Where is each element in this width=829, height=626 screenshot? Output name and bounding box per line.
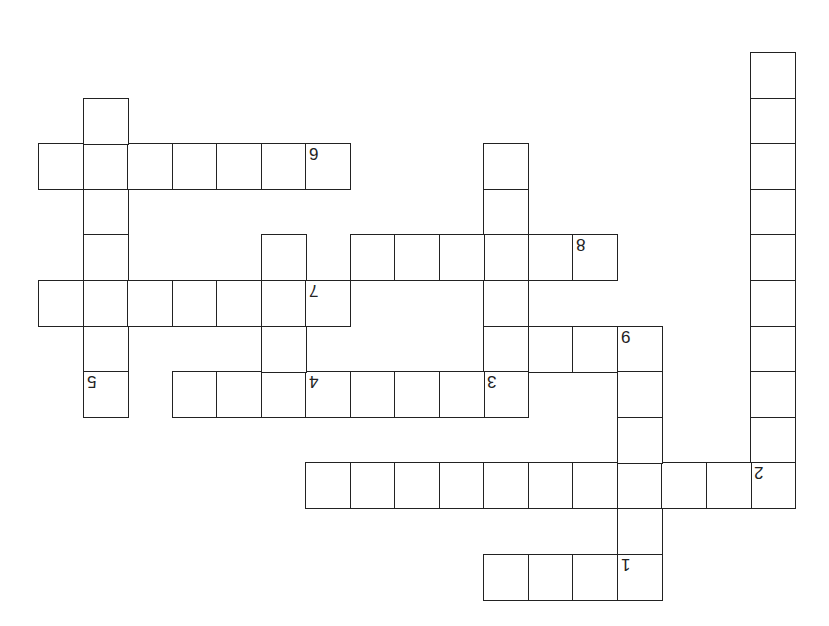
crossword-cell[interactable] bbox=[750, 371, 796, 418]
crossword-cell[interactable] bbox=[394, 234, 440, 281]
crossword-cell[interactable] bbox=[528, 326, 574, 373]
crossword-cell[interactable] bbox=[261, 234, 307, 281]
crossword-cell[interactable] bbox=[38, 143, 84, 190]
crossword-cell[interactable] bbox=[83, 143, 129, 190]
crossword-cell-5[interactable]: 5 bbox=[83, 371, 129, 418]
crossword-cell[interactable] bbox=[216, 143, 262, 190]
crossword-cell[interactable] bbox=[83, 98, 129, 145]
crossword-cell[interactable] bbox=[439, 234, 485, 281]
clue-number: 3 bbox=[487, 373, 496, 390]
crossword-cell[interactable] bbox=[750, 98, 796, 145]
crossword-cell[interactable] bbox=[38, 280, 84, 327]
crossword-cell[interactable] bbox=[483, 234, 529, 281]
clue-number: 7 bbox=[309, 282, 318, 299]
crossword-cell[interactable] bbox=[528, 554, 574, 601]
crossword-cell[interactable] bbox=[172, 280, 218, 327]
clue-number: 4 bbox=[309, 373, 318, 390]
crossword-cell[interactable] bbox=[261, 371, 307, 418]
crossword-cell[interactable] bbox=[483, 554, 529, 601]
crossword-cell[interactable] bbox=[172, 143, 218, 190]
crossword-cell-1[interactable]: 1 bbox=[617, 554, 663, 601]
crossword-cell[interactable] bbox=[750, 280, 796, 327]
crossword-cell[interactable] bbox=[572, 554, 618, 601]
clue-number: 8 bbox=[576, 236, 585, 253]
crossword-cell[interactable] bbox=[617, 371, 663, 418]
crossword-cell[interactable] bbox=[439, 462, 485, 509]
crossword-cell-9[interactable]: 9 bbox=[617, 326, 663, 373]
crossword-cell[interactable] bbox=[572, 326, 618, 373]
clue-number: 1 bbox=[621, 556, 630, 573]
crossword-cell[interactable] bbox=[617, 508, 663, 555]
crossword-cell[interactable] bbox=[528, 462, 574, 509]
crossword-cell[interactable] bbox=[750, 326, 796, 373]
crossword-cell[interactable] bbox=[305, 462, 351, 509]
crossword-cell[interactable] bbox=[750, 143, 796, 190]
crossword-cell[interactable] bbox=[394, 371, 440, 418]
crossword-cell[interactable] bbox=[216, 280, 262, 327]
crossword-cell[interactable] bbox=[261, 143, 307, 190]
clue-number: 2 bbox=[754, 464, 763, 481]
crossword-cell[interactable] bbox=[483, 326, 529, 373]
crossword-cell[interactable] bbox=[706, 462, 752, 509]
crossword-cell[interactable] bbox=[261, 326, 307, 373]
crossword-cell-8[interactable]: 8 bbox=[572, 234, 618, 281]
crossword-cell[interactable] bbox=[83, 326, 129, 373]
crossword-cell-4[interactable]: 4 bbox=[305, 371, 351, 418]
crossword-cell[interactable] bbox=[83, 234, 129, 281]
crossword-cell[interactable] bbox=[350, 234, 396, 281]
crossword-cell[interactable] bbox=[750, 234, 796, 281]
crossword-cell[interactable] bbox=[261, 280, 307, 327]
clue-number: 5 bbox=[87, 373, 96, 390]
crossword-cell[interactable] bbox=[483, 143, 529, 190]
crossword-cell[interactable] bbox=[750, 189, 796, 236]
crossword-cell[interactable] bbox=[350, 371, 396, 418]
crossword-cell[interactable] bbox=[172, 371, 218, 418]
crossword-cell[interactable] bbox=[439, 371, 485, 418]
crossword-cell-6[interactable]: 6 bbox=[305, 143, 351, 190]
crossword-cell[interactable] bbox=[483, 189, 529, 236]
crossword-cell[interactable] bbox=[483, 462, 529, 509]
crossword-cell-3[interactable]: 3 bbox=[483, 371, 529, 418]
clue-number: 6 bbox=[309, 145, 318, 162]
crossword-cell[interactable] bbox=[350, 462, 396, 509]
crossword-grid: 291348765 bbox=[0, 0, 829, 626]
crossword-cell[interactable] bbox=[572, 462, 618, 509]
crossword-cell[interactable] bbox=[83, 189, 129, 236]
crossword-cell[interactable] bbox=[750, 417, 796, 464]
crossword-cell[interactable] bbox=[394, 462, 440, 509]
crossword-cell[interactable] bbox=[617, 462, 663, 509]
crossword-cell[interactable] bbox=[127, 143, 173, 190]
crossword-cell-2[interactable]: 2 bbox=[750, 462, 796, 509]
crossword-cell[interactable] bbox=[617, 417, 663, 464]
crossword-cell-7[interactable]: 7 bbox=[305, 280, 351, 327]
crossword-cell[interactable] bbox=[483, 280, 529, 327]
crossword-cell[interactable] bbox=[127, 280, 173, 327]
clue-number: 9 bbox=[621, 328, 630, 345]
crossword-cell[interactable] bbox=[216, 371, 262, 418]
crossword-cell[interactable] bbox=[750, 52, 796, 99]
crossword-cell[interactable] bbox=[528, 234, 574, 281]
crossword-cell[interactable] bbox=[661, 462, 707, 509]
crossword-cell[interactable] bbox=[83, 280, 129, 327]
